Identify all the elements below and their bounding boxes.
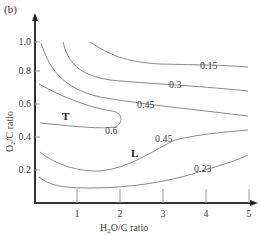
contour-0.3 [63, 42, 248, 91]
y-tick-label-0.2: 0.2 [19, 164, 32, 175]
y-axis-title: O2/C ratio [4, 111, 17, 152]
x-tick-label-2: 2 [118, 208, 123, 219]
x-tick-label-1: 1 [75, 208, 80, 219]
contour-0.23 [39, 155, 248, 188]
x-tick-label-4: 4 [204, 208, 209, 219]
y-tick-label-0.8: 0.8 [19, 65, 32, 76]
y-tick-label-0.6: 0.6 [19, 98, 32, 109]
contour-label-0.23: 0.23 [194, 163, 212, 174]
contour-chart: 0.15 0.3 0.45 0.6 0.45 0.23 T L 1.0 0.8 … [0, 0, 260, 235]
x-tick-label-5: 5 [247, 208, 252, 219]
contour-0.15 [90, 42, 248, 67]
y-tick-label-0.4: 0.4 [19, 131, 32, 142]
contour-label-0.15: 0.15 [200, 60, 218, 71]
point-label-L: L [131, 147, 138, 159]
contour-0.45-lower [40, 130, 248, 171]
contour-label-0.45-lower: 0.45 [155, 133, 173, 144]
x-axis-title: H2O/C ratio [100, 222, 148, 235]
x-ticks [77, 189, 249, 203]
y-tick-label-1.0: 1.0 [19, 36, 32, 47]
x-axis-arrow-icon [250, 200, 258, 206]
contour-label-0.45-upper: 0.45 [137, 99, 155, 110]
y-axis-arrow-icon [32, 13, 38, 21]
contour-label-0.6: 0.6 [105, 125, 118, 136]
contour-label-0.3: 0.3 [169, 79, 182, 90]
x-tick-label-3: 3 [161, 208, 166, 219]
point-label-T: T [62, 110, 70, 122]
